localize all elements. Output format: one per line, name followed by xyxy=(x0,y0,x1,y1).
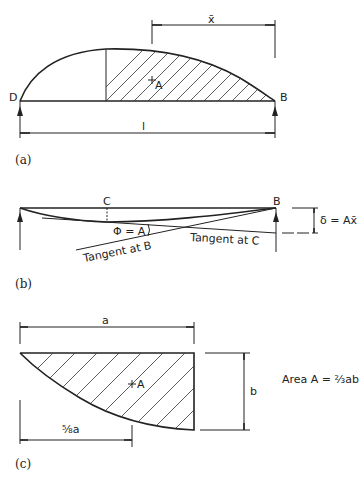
a-label: a xyxy=(102,314,109,327)
area-formula: Area A = ⅔ab xyxy=(282,373,359,386)
centroid-label: A xyxy=(155,79,163,92)
moment-area-diagram: A D B l x̄ (a) C B Φ = A Tang xyxy=(0,0,364,484)
caption-a: (a) xyxy=(15,153,32,167)
deflected-curve xyxy=(20,208,276,222)
span-label: l xyxy=(142,120,145,133)
angle-arc xyxy=(148,224,150,236)
angle-label: Φ = A xyxy=(113,225,146,238)
support-right-arrow-icon xyxy=(273,212,279,222)
tangent-b-label: Tangent at B xyxy=(81,239,152,265)
support-d-arrow-icon xyxy=(17,106,23,116)
figure-a-bending-moment-diagram: A D B l x̄ (a) xyxy=(9,13,334,167)
xbar-label: x̄ xyxy=(208,13,215,26)
centroid-distance-label: ⅝a xyxy=(62,423,79,436)
figure-c-parabolic-area: a A xyxy=(0,314,359,471)
tangent-c-label: Tangent at C xyxy=(189,231,260,248)
point-b-label: B xyxy=(273,195,281,208)
moment-curve xyxy=(20,49,275,101)
caption-c: (c) xyxy=(15,457,31,471)
point-d-label: D xyxy=(9,91,17,104)
b-label: b xyxy=(250,385,257,398)
point-c-label: C xyxy=(103,195,111,208)
hatched-area xyxy=(0,353,273,440)
centroid-label: A xyxy=(137,378,145,391)
support-b-arrow-icon xyxy=(272,106,278,116)
support-left-arrow-icon xyxy=(17,212,23,222)
figure-b-deflected-beam: C B Φ = A Tangent at C Tangent at B δ = … xyxy=(15,195,357,291)
point-b-label: B xyxy=(280,91,288,104)
caption-b: (b) xyxy=(15,277,32,291)
deflection-label: δ = Ax̄ xyxy=(320,214,357,227)
